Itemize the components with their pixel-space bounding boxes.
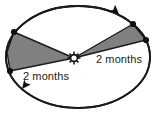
sector-label-right: 2 months [96,53,142,65]
swept-sector-left [7,32,74,71]
sun-icon [68,52,81,65]
planet-marker-lower-left [7,68,13,74]
planet-marker-lower-right [143,37,149,43]
orbit-diagram: 2 months 2 months [0,0,157,117]
planet-marker-upper-left [11,29,17,35]
sector-label-left: 2 months [23,70,69,82]
sun-core [71,55,78,62]
planet-marker-upper-right [130,21,136,27]
